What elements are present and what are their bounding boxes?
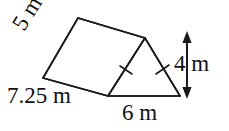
label-prism-length-7-25m: 7.25 m — [7, 84, 71, 107]
label-triangle-height-4m: 4 m — [174, 52, 209, 75]
height-arrow-head-down — [182, 87, 191, 99]
triangular-prism-figure: 5 m 7.25 m 6 m 4 m — [0, 0, 229, 131]
label-triangle-base-6m: 6 m — [122, 101, 157, 124]
height-arrow-head-up — [182, 31, 191, 43]
